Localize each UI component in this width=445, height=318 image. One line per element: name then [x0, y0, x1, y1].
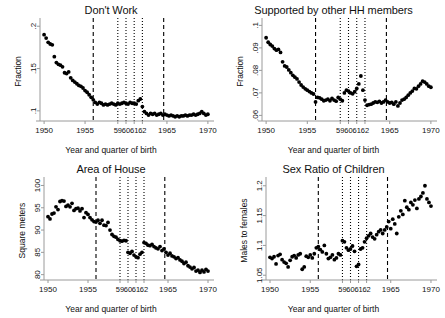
data-point: [353, 90, 357, 94]
y-tick-label: .15: [29, 62, 38, 74]
data-point: [312, 252, 316, 256]
data-point: [44, 36, 48, 40]
y-axis-label: Fraction: [13, 56, 23, 87]
data-point: [421, 191, 425, 195]
data-point: [419, 195, 423, 199]
data-point: [394, 100, 398, 104]
data-point: [339, 253, 343, 257]
data-point: [363, 240, 367, 244]
plot-area-sex-ratio: 1.051.11.151.2Males to females1950195559…: [222, 159, 445, 318]
y-axis-label: Square meters: [17, 203, 27, 259]
data-point: [206, 112, 210, 116]
data-point: [411, 203, 415, 207]
data-point: [140, 105, 144, 109]
data-point: [281, 60, 285, 64]
data-point: [393, 222, 397, 226]
x-tick-label: 62: [140, 285, 148, 294]
data-point: [298, 252, 302, 256]
data-point: [52, 211, 56, 215]
data-point: [397, 215, 401, 219]
data-point: [399, 209, 403, 213]
data-point: [391, 217, 395, 221]
data-point: [340, 99, 344, 103]
data-point: [335, 256, 339, 260]
multi-panel-figure: Don't Work .1.15.2Fraction19501955596061…: [0, 0, 445, 318]
x-tick-label: 62: [361, 126, 369, 135]
data-point: [363, 98, 367, 102]
data-point: [423, 184, 427, 188]
data-point: [369, 232, 373, 236]
x-tick-label: 1955: [76, 126, 94, 135]
data-point: [379, 228, 383, 232]
y-tick-label: 1.15: [255, 207, 264, 223]
y-tick-label: 90: [33, 225, 42, 234]
panel-dont-work: Don't Work .1.15.2Fraction19501955596061…: [0, 0, 222, 159]
panel-area-of-house: Area of House 80859095100Square meters19…: [0, 159, 222, 318]
data-point: [184, 260, 188, 264]
data-point: [50, 43, 54, 47]
data-point: [353, 249, 357, 253]
data-point: [70, 201, 74, 205]
x-tick-label: 61: [353, 126, 361, 135]
y-tick-label: 100: [33, 178, 42, 192]
data-point: [427, 201, 431, 205]
x-tick-label: 1970: [422, 126, 440, 135]
x-tick-label: 60: [344, 126, 352, 135]
data-point: [206, 269, 210, 273]
data-point: [62, 199, 66, 203]
data-point: [355, 86, 359, 90]
y-tick-label: .08: [251, 64, 260, 76]
data-point: [130, 250, 134, 254]
data-point: [351, 244, 355, 248]
data-point: [286, 265, 290, 269]
data-point: [108, 228, 112, 232]
y-tick-label: 85: [33, 247, 42, 256]
x-tick-label: 1965: [158, 126, 176, 135]
x-tick-label: 1965: [159, 285, 177, 294]
y-tick-label: .06: [251, 109, 260, 121]
data-point: [389, 227, 393, 231]
x-tick-label: 60: [122, 126, 130, 135]
y-tick-label: 95: [33, 203, 42, 212]
data-point: [98, 221, 102, 225]
data-point: [162, 247, 166, 251]
x-tick-label: 59: [336, 126, 344, 135]
x-tick-label: 1970: [199, 285, 217, 294]
data-point: [324, 252, 328, 256]
data-point: [343, 240, 347, 244]
x-tick-label: 1950: [257, 126, 275, 135]
data-point: [138, 97, 142, 101]
data-point: [302, 265, 306, 269]
data-point: [192, 266, 196, 270]
data-point: [279, 50, 283, 54]
data-point: [140, 250, 144, 254]
x-tick-label: 62: [138, 126, 146, 135]
y-tick-label: 1.1: [255, 239, 264, 251]
data-point: [67, 70, 71, 74]
data-point: [413, 198, 417, 202]
data-point: [361, 88, 365, 92]
data-point: [106, 221, 110, 225]
y-tick-label: 80: [33, 270, 42, 279]
x-axis-label: Year and quarter of birth: [0, 304, 222, 314]
x-tick-label: 1965: [381, 126, 399, 135]
data-point: [385, 225, 389, 229]
x-tick-label: 1970: [199, 126, 217, 135]
y-axis-label: Males to females: [239, 198, 249, 262]
x-tick-label: 1950: [39, 285, 57, 294]
data-point: [124, 239, 128, 243]
plot-area-supported-by-hh: .06.07.08.09.1Fraction195019555960616219…: [222, 0, 445, 159]
data-point: [312, 92, 316, 96]
y-tick-label: .09: [251, 42, 260, 54]
data-point: [68, 205, 72, 209]
data-point: [320, 250, 324, 254]
data-point: [295, 77, 299, 81]
x-tick-label: 1950: [35, 126, 53, 135]
x-tick-label: 1955: [79, 285, 97, 294]
data-point: [387, 220, 391, 224]
data-point: [272, 255, 276, 259]
x-tick-label: 59: [114, 126, 122, 135]
data-point: [322, 244, 326, 248]
y-tick-label: 1.2: [255, 180, 264, 192]
data-point: [314, 100, 318, 104]
